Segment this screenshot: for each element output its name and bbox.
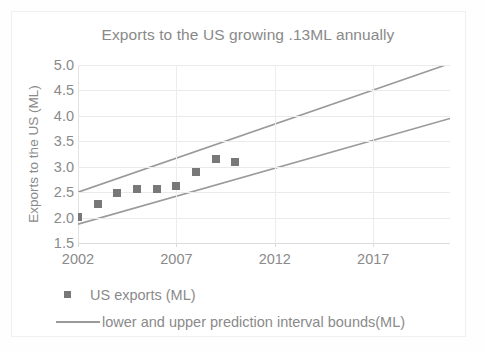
data-point-marker: [94, 200, 102, 208]
x-axis-line: [78, 243, 450, 244]
gridline-vertical: [275, 65, 276, 243]
x-tick-label: 2012: [240, 250, 310, 268]
legend-item-us-exports: US exports (ML): [56, 282, 456, 309]
data-point-marker: [231, 158, 239, 166]
x-tick-mark: [275, 243, 276, 247]
gridline-vertical: [176, 65, 177, 243]
plot-clip: [78, 65, 450, 243]
y-tick-label: 3.0: [28, 160, 74, 174]
x-tick-mark: [78, 243, 79, 247]
prediction-bound-line: [78, 118, 450, 224]
x-tick-mark: [373, 243, 374, 247]
prediction-interval-lines: [78, 65, 450, 243]
data-point-marker: [212, 155, 220, 163]
y-tick-label: 2.0: [28, 211, 74, 225]
chart-figure: Exports to the US growing .13ML annually…: [0, 0, 485, 352]
legend-square-marker-icon: [64, 291, 71, 298]
y-tick-label: 4.5: [28, 83, 74, 97]
gridline-horizontal: [78, 218, 450, 219]
data-point-marker: [78, 213, 82, 221]
chart-title: Exports to the US growing .13ML annually: [58, 22, 438, 48]
plot-area: [78, 65, 450, 243]
y-tick-label: 3.5: [28, 134, 74, 148]
gridline-horizontal: [78, 167, 450, 168]
x-tick-mark: [176, 243, 177, 247]
legend-item-prediction-bounds: lower and upper prediction interval boun…: [56, 309, 456, 336]
x-tick-label: 2017: [338, 250, 408, 268]
legend-line-marker-icon: [56, 321, 100, 323]
data-point-marker: [133, 185, 141, 193]
gridline-vertical: [373, 65, 374, 243]
data-point-marker: [153, 185, 161, 193]
x-tick-label: 2007: [141, 250, 211, 268]
gridline-horizontal: [78, 116, 450, 117]
x-tick-label: 2002: [43, 250, 113, 268]
y-tick-label: 5.0: [28, 58, 74, 72]
gridline-horizontal: [78, 65, 450, 66]
y-tick-label: 4.0: [28, 109, 74, 123]
y-tick-label: 1.5: [28, 236, 74, 250]
gridline-horizontal: [78, 141, 450, 142]
data-point-marker: [113, 189, 121, 197]
prediction-bound-line: [78, 65, 450, 192]
chart-legend: US exports (ML) lower and upper predicti…: [56, 282, 456, 336]
gridline-horizontal: [78, 90, 450, 91]
data-point-marker: [192, 168, 200, 176]
legend-label-prediction-bounds: lower and upper prediction interval boun…: [102, 309, 405, 335]
data-point-marker: [172, 182, 180, 190]
y-tick-label: 2.5: [28, 185, 74, 199]
legend-label-us-exports: US exports (ML): [90, 282, 196, 308]
